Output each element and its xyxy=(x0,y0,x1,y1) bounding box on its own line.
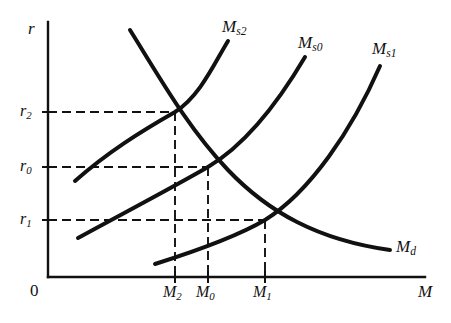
axis-lines xyxy=(48,22,425,277)
x-axis-label: M xyxy=(418,283,432,300)
y-axis-label: r xyxy=(28,20,35,37)
curve-label-ms2-main: M xyxy=(222,17,236,36)
x-tick-label-m0: M0 xyxy=(196,284,215,300)
money-market-diagram: r M 0 r2 r0 r1 M2 M0 M1 Ms2 Ms0 Ms1 Md xyxy=(0,0,451,323)
curve-label-ms0-main: M xyxy=(298,33,312,52)
curve-lines xyxy=(75,30,390,264)
y-tick-label-r0-sub: 0 xyxy=(26,164,31,176)
origin-label: 0 xyxy=(30,282,39,299)
curve-label-md-sub: d xyxy=(410,245,416,258)
curve-label-ms1: Ms1 xyxy=(372,40,396,57)
curve-label-md: Md xyxy=(396,238,416,255)
x-tick-label-m2: M2 xyxy=(163,284,182,300)
x-tick-label-m1-main: M xyxy=(253,283,266,300)
x-tick-label-m1: M1 xyxy=(253,284,272,300)
y-tick-label-r1: r1 xyxy=(20,211,32,227)
money-demand-curve xyxy=(130,30,390,250)
curve-label-ms0: Ms0 xyxy=(298,34,322,51)
money-supply-0-curve xyxy=(78,57,305,238)
x-tick-label-m0-sub: 0 xyxy=(209,290,214,302)
curve-label-ms2: Ms2 xyxy=(222,18,246,35)
curve-label-ms1-main: M xyxy=(372,39,386,58)
y-tick-label-r0: r0 xyxy=(20,158,32,174)
y-tick-label-r2-sub: 2 xyxy=(26,109,31,121)
x-tick-label-m0-main: M xyxy=(196,283,209,300)
curve-label-ms2-sub: s2 xyxy=(236,25,246,38)
curve-label-ms0-sub: s0 xyxy=(312,41,322,54)
curve-label-ms1-sub: s1 xyxy=(386,47,396,60)
money-supply-1-curve xyxy=(155,66,380,264)
curve-label-md-main: M xyxy=(396,237,410,256)
x-tick-label-m2-main: M xyxy=(163,283,176,300)
y-tick-label-r1-sub: 1 xyxy=(26,217,31,229)
x-tick-label-m2-sub: 2 xyxy=(176,290,181,302)
x-tick-label-m1-sub: 1 xyxy=(266,290,271,302)
y-tick-label-r2: r2 xyxy=(20,103,32,119)
